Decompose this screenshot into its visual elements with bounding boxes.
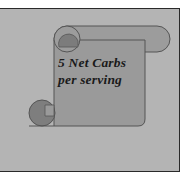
scroll-icon [0, 0, 196, 179]
scroll-caption: 5 Net Carbs per serving [58, 54, 148, 88]
caption-line-1: 5 Net Carbs [58, 54, 148, 71]
caption-line-2: per serving [58, 71, 148, 88]
